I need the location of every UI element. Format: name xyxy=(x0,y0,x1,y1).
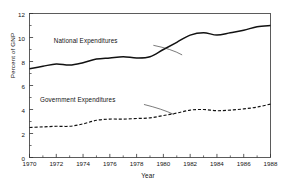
series-annotation-label: National Expenditures xyxy=(54,37,118,45)
axes-box xyxy=(30,14,271,158)
axis-ticks xyxy=(30,14,271,158)
expenditures-line-chart: Percent of GNP Year 024681012 1970197219… xyxy=(0,0,286,189)
series-line-dashed xyxy=(30,104,271,127)
annotations-group: National ExpendituresGovernment Expendit… xyxy=(40,37,182,115)
plot-frame xyxy=(30,14,271,158)
plot-canvas: National ExpendituresGovernment Expendit… xyxy=(0,0,286,189)
series-line-solid xyxy=(30,26,271,69)
annotation-leader-line xyxy=(144,104,174,114)
series-annotation-label: Government Expenditures xyxy=(40,96,115,104)
